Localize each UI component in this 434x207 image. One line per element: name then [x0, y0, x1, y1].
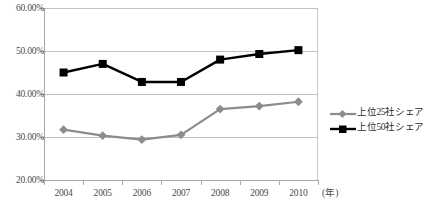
data-point — [255, 102, 264, 111]
legend-item-top50[interactable]: 上位50社シェア — [330, 119, 434, 134]
data-point — [294, 97, 303, 106]
data-point — [99, 60, 107, 68]
legend-swatch-square-icon — [330, 121, 356, 133]
data-point — [60, 69, 68, 77]
series-top25 — [59, 97, 303, 144]
data-point — [59, 125, 68, 134]
chart-legend: 上位25社シェア 上位50社シェア — [330, 104, 434, 134]
data-point — [216, 56, 224, 64]
data-point — [98, 131, 107, 140]
legend-item-top25[interactable]: 上位25社シェア — [330, 104, 434, 119]
data-point — [177, 78, 185, 86]
data-point — [294, 46, 302, 54]
legend-label-top50: 上位50社シェア — [357, 121, 424, 133]
series-top50 — [60, 46, 303, 86]
legend-label-top25: 上位25社シェア — [357, 106, 424, 118]
legend-swatch-diamond-icon — [330, 106, 356, 118]
data-point — [255, 50, 263, 58]
data-point — [137, 135, 146, 144]
chart-container: 20.00%30.00%40.00%50.00%60.00% 200420052… — [0, 0, 434, 207]
data-point — [138, 78, 146, 86]
